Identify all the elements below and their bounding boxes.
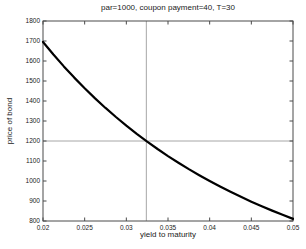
y-tick-label: 1000 bbox=[26, 177, 41, 184]
y-tick-label: 1200 bbox=[26, 137, 41, 144]
y-tick-label: 1300 bbox=[26, 117, 41, 124]
y-tick-label: 1600 bbox=[26, 57, 41, 64]
plot-area: 0.020.0250.030.0350.040.0450.05800900100… bbox=[0, 0, 306, 249]
y-tick-label: 1700 bbox=[26, 37, 41, 44]
x-axis-label: yield to maturity bbox=[43, 230, 293, 239]
y-tick-label: 1100 bbox=[26, 157, 40, 164]
y-tick-label: 800 bbox=[29, 217, 40, 224]
y-axis-label: price of bond bbox=[5, 98, 14, 144]
chart-title: par=1000, coupon payment=40, T=30 bbox=[43, 3, 293, 12]
y-tick-label: 1800 bbox=[26, 17, 41, 24]
matlab-figure: 0.020.0250.030.0350.040.0450.05800900100… bbox=[0, 0, 306, 249]
axes-box bbox=[43, 21, 293, 221]
y-tick-label: 1500 bbox=[26, 77, 41, 84]
y-tick-label: 900 bbox=[29, 197, 40, 204]
price-curve bbox=[43, 42, 293, 219]
y-tick-label: 1400 bbox=[26, 97, 41, 104]
